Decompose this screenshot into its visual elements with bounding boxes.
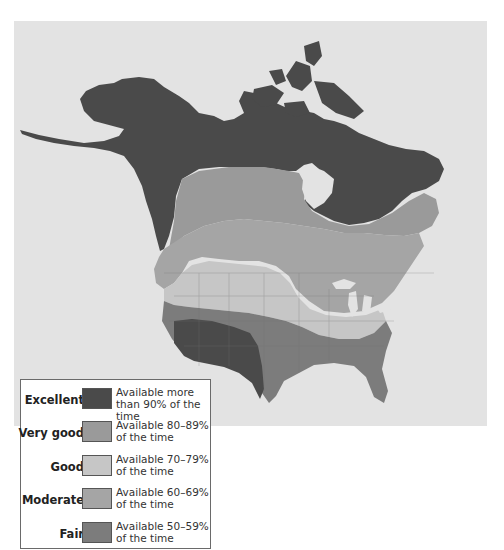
legend-label: Good [51,460,84,474]
legend-label: Very good [18,426,84,440]
legend-item-good: Good Available 70–79% of the time [21,455,212,483]
legend-item-excellent: Excellent Available more than 90% of the… [21,388,212,416]
legend-item-moderate: Moderate Available 60–69% of the time [21,488,212,516]
legend-label: Moderate [22,493,84,507]
legend-swatch [82,455,112,476]
legend-label: Fair [59,527,84,541]
legend-swatch [82,388,112,409]
legend-description: Available 80–89% of the time [116,419,211,443]
legend-description: Available 50–59% of the time [116,520,211,544]
legend-label: Excellent [25,393,84,407]
legend-swatch [82,421,112,442]
legend-description: Available 70–79% of the time [116,453,211,477]
legend-item-very-good: Very good Available 80–89% of the time [21,421,212,449]
legend-description: Available 60–69% of the time [116,486,211,510]
legend-swatch [82,488,112,509]
legend-item-fair: Fair Available 50–59% of the time [21,522,212,550]
map-frame [14,21,487,426]
legend: Excellent Available more than 90% of the… [20,379,211,549]
legend-swatch [82,522,112,543]
legend-description: Available more than 90% of the time [116,386,211,422]
north-america-map [14,21,487,426]
